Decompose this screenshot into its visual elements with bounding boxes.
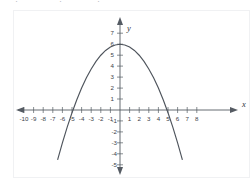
y-tick-group: 7 6 5 4 3 2 1 -1 -2 -3 -4 -5 bbox=[111, 29, 123, 168]
fragment-part-3: —.— bbox=[88, 0, 109, 4]
y-tick-label: -4 bbox=[111, 150, 117, 157]
y-tick-label: -3 bbox=[111, 139, 117, 146]
y-axis-label: y bbox=[126, 23, 131, 33]
y-tick-label: 4 bbox=[111, 62, 115, 69]
x-tick-label: 6 bbox=[176, 115, 180, 122]
x-tick-label: 4 bbox=[157, 115, 161, 122]
y-tick-label: 2 bbox=[111, 84, 115, 91]
x-tick-label: -3 bbox=[88, 115, 94, 122]
y-tick-label: 7 bbox=[111, 29, 115, 36]
fragment-part-1: —.— bbox=[6, 0, 27, 4]
x-tick-label: -8 bbox=[40, 115, 46, 122]
top-text-fragment: —.— —.— —.— bbox=[0, 0, 251, 9]
graph-figure-card: x y -10 -9 -8 -7 -6 -5 -4 -3 -2 -1 1 bbox=[13, 10, 250, 178]
y-tick-label: -1 bbox=[111, 117, 117, 124]
x-tick-group: -10 -9 -8 -7 -6 -5 -4 -3 -2 -1 1 2 3 bbox=[20, 107, 200, 122]
x-tick-label: 3 bbox=[147, 115, 151, 122]
x-axis-label: x bbox=[241, 99, 246, 109]
x-tick-label: 8 bbox=[195, 115, 199, 122]
x-tick-label: -9 bbox=[31, 115, 37, 122]
y-tick-label: 1 bbox=[111, 95, 115, 102]
y-tick-label: 5 bbox=[111, 51, 115, 58]
parabola-plot: x y -10 -9 -8 -7 -6 -5 -4 -3 -2 -1 1 bbox=[14, 11, 250, 177]
x-axis bbox=[16, 107, 238, 113]
fragment-part-2: —.— bbox=[50, 0, 71, 4]
y-axis bbox=[117, 17, 123, 175]
x-tick-label: -2 bbox=[98, 115, 104, 122]
x-tick-label: 7 bbox=[185, 115, 189, 122]
y-tick-label: 3 bbox=[111, 73, 115, 80]
x-tick-label: -10 bbox=[20, 115, 30, 122]
x-tick-label: -6 bbox=[60, 115, 66, 122]
y-tick-label: -2 bbox=[111, 128, 117, 135]
x-tick-label: -7 bbox=[50, 115, 56, 122]
x-tick-label: 2 bbox=[137, 115, 141, 122]
y-tick-label: -5 bbox=[111, 161, 117, 168]
x-tick-label: -4 bbox=[79, 115, 85, 122]
x-tick-label: 1 bbox=[128, 115, 132, 122]
